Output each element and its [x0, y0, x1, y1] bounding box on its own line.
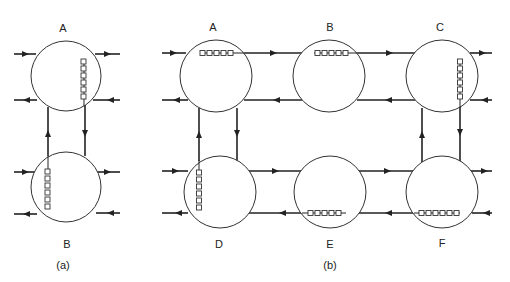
arrow-up-icon: [196, 131, 202, 138]
node-a-B: [31, 152, 101, 222]
arrow-down-icon: [457, 129, 463, 136]
caption-b: (b): [323, 259, 336, 271]
arrow-right-icon: [479, 50, 486, 56]
arrow-left-icon: [23, 211, 30, 217]
arrow-up-icon: [45, 130, 51, 137]
arrow-right-icon: [104, 51, 111, 57]
arrow-left-icon: [483, 210, 490, 216]
arrow-right-icon: [386, 50, 393, 56]
arrow-down-icon: [82, 130, 88, 137]
arrow-left-icon: [107, 210, 114, 216]
links-b-A-D: [196, 108, 240, 162]
arrow-left-icon: [23, 97, 30, 103]
arrow-right-icon: [170, 50, 177, 56]
queue-a-A: [81, 59, 86, 106]
arrow-left-icon: [175, 210, 182, 216]
node-label-b-C: C: [436, 21, 444, 33]
node-label-b-F: F: [439, 237, 446, 249]
arrow-right-icon: [172, 168, 179, 174]
node-a-A: [31, 41, 101, 111]
subfigure-a: A B (a): [14, 22, 120, 271]
arrow-right-icon: [22, 169, 29, 175]
figure-canvas: A B (a): [0, 0, 510, 282]
caption-a: (a): [56, 259, 69, 271]
arrow-right-icon: [22, 51, 29, 57]
arrow-right-icon: [384, 168, 391, 174]
node-b-C: [406, 40, 478, 112]
arrow-left-icon: [173, 97, 180, 103]
node-b-E: [294, 156, 366, 228]
links-a-A-B: [45, 104, 88, 156]
arrow-down-icon: [234, 130, 240, 137]
arrow-left-icon: [107, 97, 114, 103]
node-label-b-B: B: [326, 21, 333, 33]
node-b-D: [184, 156, 256, 228]
node-label-b-E: E: [326, 238, 333, 250]
subfigure-b: A B C D E F (b): [162, 21, 492, 271]
arrow-right-icon: [272, 168, 279, 174]
arrow-right-icon: [270, 50, 277, 56]
node-label-b-A: A: [209, 21, 217, 33]
arrow-up-icon: [419, 131, 425, 138]
network-figure: A B (a): [0, 0, 510, 282]
arrow-left-icon: [273, 97, 280, 103]
arrow-left-icon: [385, 210, 392, 216]
queue-b-E: [302, 211, 346, 216]
node-b-F: [406, 156, 478, 228]
node-label-a-B: B: [63, 238, 70, 250]
arrow-left-icon: [279, 210, 286, 216]
node-label-b-D: D: [215, 238, 223, 250]
arrow-left-icon: [481, 97, 488, 103]
arrow-right-icon: [104, 169, 111, 175]
node-label-a-A: A: [59, 22, 67, 34]
arrow-right-icon: [481, 168, 488, 174]
arrow-left-icon: [385, 97, 392, 103]
